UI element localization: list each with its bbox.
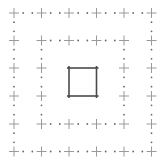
cross-mark-icon bbox=[37, 91, 47, 101]
dot-marker bbox=[41, 76, 43, 78]
dot-marker bbox=[86, 40, 88, 42]
cross-mark-icon bbox=[37, 36, 47, 46]
cross-mark-icon bbox=[9, 36, 19, 46]
dot-marker bbox=[13, 104, 15, 106]
cross-mark-icon bbox=[9, 119, 19, 129]
cross-mark-icon bbox=[147, 8, 157, 18]
dot-marker bbox=[41, 58, 43, 60]
dot-marker bbox=[31, 151, 33, 153]
cross-mark-icon bbox=[64, 36, 74, 46]
dot-marker bbox=[77, 12, 79, 14]
cross-mark-icon bbox=[92, 8, 102, 18]
dot-marker bbox=[13, 114, 15, 116]
cross-mark-icon bbox=[9, 63, 19, 73]
dot-marker bbox=[41, 104, 43, 106]
cross-mark-icon bbox=[92, 36, 102, 46]
cross-mark-icon bbox=[92, 119, 102, 129]
cross-mark-icon bbox=[147, 91, 157, 101]
outer-ring bbox=[9, 8, 157, 157]
dot-marker bbox=[22, 151, 24, 153]
cross-mark-icon bbox=[37, 119, 47, 129]
cross-mark-icon bbox=[64, 147, 74, 157]
dot-marker bbox=[86, 151, 88, 153]
cross-mark-icon bbox=[119, 8, 129, 18]
dot-marker bbox=[151, 30, 153, 32]
cross-mark-icon bbox=[37, 63, 47, 73]
dot-marker bbox=[141, 151, 143, 153]
cross-mark-icon bbox=[37, 147, 47, 157]
dot-marker bbox=[50, 151, 52, 153]
dot-marker bbox=[50, 123, 52, 125]
cross-mark-icon bbox=[147, 36, 157, 46]
dot-marker bbox=[13, 132, 15, 134]
dot-marker bbox=[151, 104, 153, 106]
cross-mark-icon bbox=[147, 147, 157, 157]
cross-mark-icon bbox=[119, 91, 129, 101]
dot-marker bbox=[86, 123, 88, 125]
dot-marker bbox=[114, 151, 116, 153]
center-square bbox=[67, 66, 99, 98]
cross-mark-icon bbox=[9, 8, 19, 18]
dot-marker bbox=[41, 86, 43, 88]
dot-marker bbox=[105, 123, 107, 125]
dot-marker bbox=[59, 12, 61, 14]
dot-marker bbox=[50, 40, 52, 42]
dot-marker bbox=[105, 40, 107, 42]
dot-marker bbox=[151, 21, 153, 23]
dot-marker bbox=[114, 40, 116, 42]
dot-marker bbox=[59, 40, 61, 42]
cross-mark-icon bbox=[147, 119, 157, 129]
dot-marker bbox=[41, 114, 43, 116]
dot-marker bbox=[132, 151, 134, 153]
dot-marker bbox=[13, 49, 15, 51]
dot-marker bbox=[105, 151, 107, 153]
dot-marker bbox=[151, 132, 153, 134]
cross-mark-icon bbox=[64, 119, 74, 129]
dot-marker bbox=[123, 49, 125, 51]
dot-marker bbox=[13, 21, 15, 23]
rings-layer bbox=[9, 8, 157, 157]
dot-marker bbox=[105, 12, 107, 14]
middle-ring bbox=[37, 36, 130, 130]
cross-mark-icon bbox=[119, 63, 129, 73]
dot-marker bbox=[22, 12, 24, 14]
dot-marker bbox=[13, 141, 15, 143]
dot-marker bbox=[123, 58, 125, 60]
dot-marker bbox=[13, 58, 15, 60]
dot-marker bbox=[77, 40, 79, 42]
cross-mark-icon bbox=[37, 8, 47, 18]
dot-marker bbox=[151, 49, 153, 51]
dot-marker bbox=[31, 12, 33, 14]
dot-marker bbox=[77, 151, 79, 153]
cross-mark-icon bbox=[9, 91, 19, 101]
dot-marker bbox=[151, 86, 153, 88]
dot-marker bbox=[114, 12, 116, 14]
dot-marker bbox=[86, 12, 88, 14]
cross-mark-icon bbox=[64, 8, 74, 18]
dot-marker bbox=[114, 123, 116, 125]
dot-marker bbox=[132, 12, 134, 14]
dot-marker bbox=[123, 114, 125, 116]
dot-marker bbox=[151, 114, 153, 116]
dot-marker bbox=[59, 123, 61, 125]
dot-marker bbox=[151, 141, 153, 143]
cross-mark-icon bbox=[119, 119, 129, 129]
cross-mark-icon bbox=[9, 147, 19, 157]
diagram-canvas bbox=[0, 0, 166, 165]
dot-marker bbox=[123, 86, 125, 88]
dot-marker bbox=[141, 12, 143, 14]
dot-marker bbox=[123, 76, 125, 78]
cross-mark-icon bbox=[92, 147, 102, 157]
cross-mark-icon bbox=[119, 36, 129, 46]
dot-marker bbox=[59, 151, 61, 153]
dot-marker bbox=[13, 76, 15, 78]
dot-marker bbox=[13, 30, 15, 32]
dot-marker bbox=[151, 76, 153, 78]
dot-marker bbox=[50, 12, 52, 14]
dot-marker bbox=[13, 86, 15, 88]
dot-marker bbox=[151, 58, 153, 60]
cross-mark-icon bbox=[147, 63, 157, 73]
registration-grid-diagram bbox=[0, 0, 166, 165]
dot-marker bbox=[77, 123, 79, 125]
dot-marker bbox=[123, 104, 125, 106]
